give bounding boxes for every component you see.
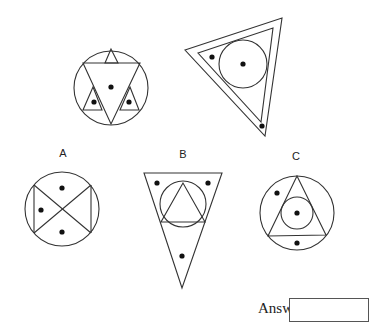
option-c-figure[interactable] [260, 176, 334, 250]
option-a-figure[interactable] [25, 172, 99, 246]
answer-input-box[interactable] [289, 298, 369, 322]
example-figure-2 [185, 18, 282, 136]
option-b-figure[interactable] [144, 173, 222, 288]
option-b-label: B [179, 148, 186, 160]
example-figure-1 [74, 49, 148, 125]
puzzle-canvas: A B C [0, 0, 385, 328]
option-c-label: C [292, 150, 300, 162]
option-a-label: A [59, 147, 67, 159]
